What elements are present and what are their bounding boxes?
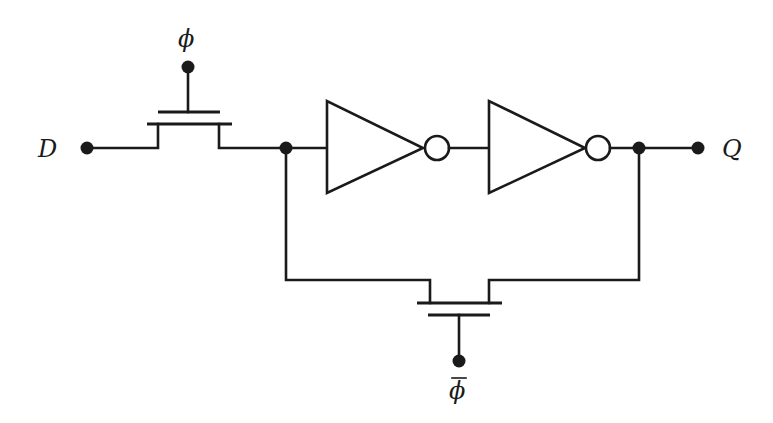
output-terminal-q [692,142,705,155]
wire-d-to-source [87,124,158,148]
clock-label-phi-bar: ϕ [449,377,465,405]
inverter-2-triangle [489,101,585,193]
wire-drain-to-node [219,124,286,148]
pass-transistor-phi-bar [417,303,502,368]
pass-transistor-phi [147,61,232,125]
inverter-2 [489,101,610,193]
output-label-q: Q [722,135,742,163]
inverter-2-bubble [586,136,610,160]
input-label-d: D [37,135,57,163]
clock-terminal-phi-bar [453,355,466,368]
clock-terminal-phi [182,61,195,74]
inverter-1-bubble [425,136,449,160]
latch-circuit-diagram: D ϕ Q ϕ [0,0,773,423]
clock-label-phi: ϕ [178,25,194,53]
inverter-1 [327,101,449,193]
inverter-1-triangle [327,101,423,193]
